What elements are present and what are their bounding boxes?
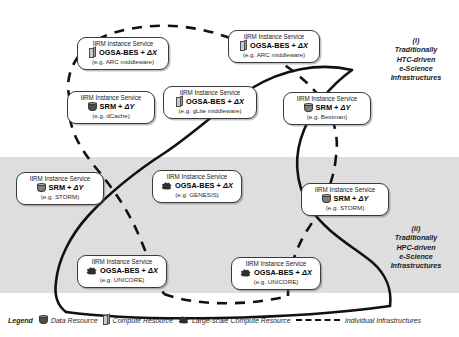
node-example: (e.g. UNICORE)	[237, 278, 315, 286]
legend-label: Compute Resource	[113, 317, 173, 324]
data-resource-icon	[322, 194, 331, 204]
service-node-unicore-right[interactable]: IIRM Instance Service OGSA-BES + ΔX (e.g…	[231, 257, 321, 290]
region-marker: (i)	[374, 36, 458, 45]
region-line-4: Infrastructures	[374, 261, 458, 270]
node-interface-row: OGSA-BES + ΔX	[169, 97, 251, 107]
node-interface: OGSA-BES + ΔX	[175, 181, 233, 191]
node-interface: OGSA-BES + ΔX	[186, 97, 244, 107]
node-interface: SRM + ΔY	[316, 103, 351, 113]
region-line-1: Traditionally	[374, 45, 458, 54]
region-line-2: HPC-driven	[374, 243, 458, 252]
node-example: (e.g. Bestman)	[289, 113, 365, 121]
node-interface-row: OGSA-BES + ΔX	[234, 41, 314, 51]
region-line-3: e-Science	[374, 64, 458, 73]
compute-resource-icon	[240, 41, 247, 51]
legend-item-individual-infrastructures: Individual Infrastructures	[296, 317, 421, 324]
node-title: IIRM Instance Service	[73, 94, 149, 102]
compute-resource-icon	[89, 48, 96, 58]
large-scale-compute-resource-icon	[178, 316, 189, 324]
service-node-glite[interactable]: IIRM Instance Service OGSA-BES + ΔX (e.g…	[163, 86, 257, 119]
compute-resource-icon	[176, 97, 183, 107]
node-interface-row: OGSA-BES + ΔX	[237, 268, 315, 278]
node-interface: SRM + ΔY	[49, 183, 84, 193]
service-node-unicore-left[interactable]: IIRM Instance Service OGSA-BES + ΔX (e.g…	[77, 255, 167, 288]
node-title: IIRM Instance Service	[83, 258, 161, 266]
legend: Legend Data Resource Compute Resource La…	[8, 312, 454, 328]
service-node-storm-right[interactable]: IIRM Instance Service SRM + ΔY (e.g. STO…	[301, 183, 389, 216]
large-scale-compute-resource-icon	[161, 182, 172, 190]
node-example: (e.g. dCache)	[73, 112, 149, 120]
node-title: IIRM Instance Service	[158, 173, 236, 181]
node-interface: OGSA-BES + ΔX	[100, 266, 158, 276]
legend-item-data-resource: Data Resource	[39, 315, 98, 325]
dashed-boundary-bottom	[164, 294, 288, 303]
service-node-arc[interactable]: IIRM Instance Service OGSA-BES + ΔX (e.g…	[77, 37, 169, 70]
compute-resource-icon	[103, 315, 110, 325]
service-node-storm-left[interactable]: IIRM Instance Service SRM + ΔY (e.g. STO…	[16, 172, 104, 205]
node-example: (e.g. gLite middleware)	[169, 107, 251, 115]
node-title: IIRM Instance Service	[22, 175, 98, 183]
data-resource-icon	[304, 103, 313, 113]
service-node-genesis[interactable]: IIRM Instance Service OGSA-BES + ΔX (e.g…	[152, 170, 242, 203]
service-node-bestman[interactable]: IIRM Instance Service SRM + ΔY (e.g. Bes…	[283, 92, 371, 125]
node-example: (e.g. UNICORE)	[83, 276, 161, 284]
service-node-arc-2[interactable]: IIRM Instance Service OGSA-BES + ΔX (e.g…	[228, 30, 320, 63]
service-node-dcache[interactable]: IIRM Instance Service SRM + ΔY (e.g. dCa…	[67, 91, 155, 124]
region-marker: (ii)	[374, 224, 458, 233]
region-line-3: e-Science	[374, 252, 458, 261]
region-line-2: HTC-driven	[374, 55, 458, 64]
legend-label: Individual Infrastructures	[345, 317, 421, 324]
node-interface: OGSA-BES + ΔX	[250, 41, 308, 51]
node-example: (e.g. GENESIS)	[158, 191, 236, 199]
node-example: (e.g. ARC middleware)	[83, 58, 163, 66]
large-scale-compute-resource-icon	[240, 269, 251, 277]
data-resource-icon	[37, 183, 46, 193]
node-example: (e.g. STORM)	[22, 193, 98, 201]
legend-title: Legend	[8, 317, 33, 324]
node-interface-row: OGSA-BES + ΔX	[158, 181, 236, 191]
data-resource-icon	[39, 315, 48, 325]
node-interface-row: SRM + ΔY	[289, 103, 365, 113]
node-title: IIRM Instance Service	[237, 260, 315, 268]
node-interface-row: SRM + ΔY	[73, 102, 149, 112]
node-title: IIRM Instance Service	[307, 186, 383, 194]
large-scale-compute-resource-icon	[86, 267, 97, 275]
region-line-1: Traditionally	[374, 233, 458, 242]
dashed-line-icon	[296, 319, 340, 321]
node-interface-row: OGSA-BES + ΔX	[83, 266, 161, 276]
node-interface: SRM + ΔY	[100, 102, 135, 112]
node-interface: OGSA-BES + ΔX	[254, 268, 312, 278]
node-example: (e.g. ARC middleware)	[234, 51, 314, 59]
node-interface: OGSA-BES + ΔX	[99, 48, 157, 58]
legend-item-compute-resource: Compute Resource	[103, 315, 173, 325]
node-interface-row: SRM + ΔY	[307, 194, 383, 204]
diagram-canvas: IIRM Instance Service OGSA-BES + ΔX (e.g…	[0, 0, 459, 337]
legend-label: Large-scale Compute Resource	[192, 317, 291, 324]
region-label-hpc: (ii) Traditionally HPC-driven e-Science …	[374, 224, 458, 270]
region-line-4: Infrastructures	[374, 73, 458, 82]
node-interface-row: OGSA-BES + ΔX	[83, 48, 163, 58]
region-label-htc: (i) Traditionally HTC-driven e-Science I…	[374, 36, 458, 82]
node-interface-row: SRM + ΔY	[22, 183, 98, 193]
data-resource-icon	[88, 102, 97, 112]
legend-item-large-scale-compute-resource: Large-scale Compute Resource	[178, 316, 291, 324]
node-interface: SRM + ΔY	[334, 194, 369, 204]
legend-label: Data Resource	[51, 317, 98, 324]
node-example: (e.g. STORM)	[307, 204, 383, 212]
node-title: IIRM Instance Service	[289, 95, 365, 103]
